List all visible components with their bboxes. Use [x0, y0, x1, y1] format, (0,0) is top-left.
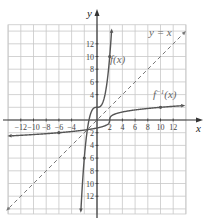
y-tick-label: 10 [86, 53, 94, 62]
f-inverse-label-sup: −1 [156, 88, 164, 96]
y-tick-label: 6 [90, 78, 94, 87]
y-tick-label: 8 [90, 65, 94, 74]
y-tick-label: 2 [90, 129, 94, 138]
x-tick-label: 4 [120, 123, 124, 132]
x-tick-label: −8 [42, 123, 51, 132]
x-tick-label: 12 [169, 123, 177, 132]
f-arrow-up-icon [110, 29, 114, 33]
x-tick-label: −6 [55, 123, 64, 132]
f-arrow-down-icon [79, 209, 83, 213]
marked-point [83, 157, 86, 160]
y-axis-arrow-icon [95, 9, 100, 16]
x-tick-label: 8 [146, 123, 150, 132]
y-tick-label: 4 [90, 141, 94, 150]
function-inverse-chart: xy −12−10−8−6−424681012468101224681012 f… [0, 0, 207, 222]
marked-point [57, 131, 60, 134]
y-tick-label: 8 [90, 167, 94, 176]
y-axis-label: y [86, 7, 92, 19]
x-tick-label: −10 [27, 123, 40, 132]
identity-line [9, 34, 182, 207]
y-tick-label: 12 [86, 192, 94, 201]
marked-point [159, 106, 162, 109]
f-inverse-arrow-right-icon [181, 104, 185, 108]
x-tick-label: 10 [157, 123, 165, 132]
identity-label: y = x [148, 26, 172, 38]
x-axis-label: x [195, 122, 201, 134]
f-inverse-label: f−1(x) [153, 88, 177, 101]
curve-labels: f(x)f−1(x)y = x [110, 26, 177, 101]
y-tick-label: 10 [86, 180, 94, 189]
y-tick-label: 4 [90, 91, 94, 100]
f-label: f(x) [110, 53, 126, 66]
f-inverse-label-arg: (x) [164, 88, 177, 101]
y-tick-label: 6 [90, 154, 94, 163]
y-tick-label: 12 [86, 40, 94, 49]
x-tick-label: 6 [133, 123, 137, 132]
x-tick-label: −12 [15, 123, 28, 132]
